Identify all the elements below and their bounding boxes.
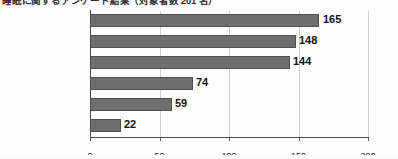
bar [90,119,121,132]
plot-area: 0 50 100 150 200 目をつぶっている 165 目を閉じている 14… [90,11,368,137]
x-axis-line [90,137,368,138]
bar [90,35,296,48]
bar-value-label: 144 [293,55,311,67]
bar [90,77,193,90]
page-bottom-edge [0,155,398,159]
gridline-100 [229,11,230,137]
xtick-200 [368,137,369,141]
bar [90,14,319,27]
bar-value-label: 22 [124,118,136,130]
gridline-200 [368,11,369,137]
bar-value-label: 165 [323,13,341,25]
bar-value-label: 74 [196,76,208,88]
bar-value-label: 148 [299,34,317,46]
bar-value-label: 59 [175,97,187,109]
y-axis-line [90,10,91,138]
chart-title: 睡眠に関するアンケート結果（対象者数 201 名） [2,0,292,7]
bar [90,56,290,69]
bar [90,98,172,111]
gridline-150 [299,11,300,137]
gridline-50 [160,11,161,137]
